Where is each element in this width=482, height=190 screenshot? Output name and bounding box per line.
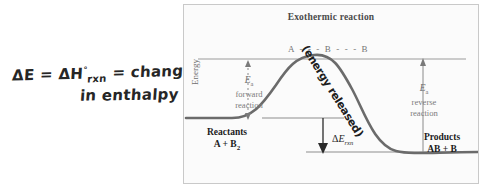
- screenshot-root: ΔE = ΔH°rxn = change in enthalpy Exother…: [0, 0, 482, 190]
- reactants-formula: A + B2: [214, 139, 240, 149]
- ea-reverse-symbol: Ea: [420, 83, 429, 93]
- delta-e-rxn-label: ΔErxn: [332, 133, 353, 146]
- ea-forward-symbol: Ea: [245, 75, 254, 85]
- handwritten-line-1: ΔE = ΔH°rxn = change: [11, 61, 194, 86]
- ea-forward-line1: forward: [235, 89, 262, 99]
- reactants-label: Reactants A + B2: [191, 126, 263, 154]
- ea-forward-line2: reaction: [235, 100, 263, 110]
- ea-reverse-label: Ea reverse reaction: [397, 83, 451, 118]
- products-heading: Products: [424, 132, 460, 142]
- energy-diagram-figure: Exothermic reaction Energy: [183, 4, 479, 184]
- handwritten-line-1-post: = change: [106, 61, 194, 81]
- products-formula: AB + B: [427, 144, 457, 154]
- ea-reverse-line1: reverse: [412, 97, 437, 107]
- delta-e-subscript: rxn: [345, 139, 354, 146]
- handwritten-rxn-subscript: rxn: [87, 73, 107, 85]
- handwritten-annotation: ΔE = ΔH°rxn = change in enthalpy: [12, 58, 187, 120]
- delta-e-rxn-arrow: [318, 118, 328, 154]
- handwritten-line-1-pre: ΔE = ΔH: [12, 65, 84, 85]
- ea-forward-label: Ea forward reaction: [222, 75, 276, 110]
- products-label: Products AB + B: [409, 131, 475, 155]
- figure-inner: Exothermic reaction Energy: [184, 5, 478, 183]
- ea-reverse-line2: reaction: [410, 108, 438, 118]
- reactants-heading: Reactants: [207, 127, 247, 137]
- handwritten-line-2: in enthalpy: [79, 85, 179, 104]
